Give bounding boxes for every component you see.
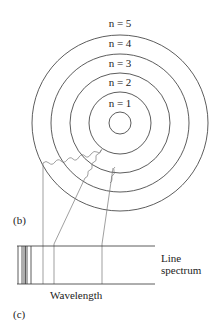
wavelength-axis-label: Wavelength (50, 290, 102, 301)
connector-2 (54, 178, 85, 284)
orbit-label-n1: n = 1 (109, 98, 132, 109)
orbit-label-n3: n = 3 (109, 58, 132, 69)
orbit-n3 (51, 54, 189, 192)
spectrum-label-line1: Line (161, 253, 181, 264)
panel-label-b: (b) (13, 215, 26, 226)
orbit-label-n2: n = 2 (109, 77, 132, 88)
orbit-label-n5: n = 5 (109, 18, 132, 29)
orbit-label-n4: n = 4 (109, 38, 132, 49)
spectrum-label-line2: spectrum (161, 265, 201, 276)
connector-3 (102, 168, 113, 284)
panel-label-c: (c) (13, 309, 25, 320)
nucleus (109, 112, 131, 134)
orbit-n2 (70, 73, 170, 173)
photon-wave-2 (85, 150, 101, 178)
